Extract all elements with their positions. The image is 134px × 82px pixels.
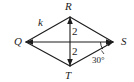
- angle-label-leader: [102, 51, 105, 55]
- vertex-label-t: T: [65, 70, 71, 81]
- vertex-label-s: S: [121, 36, 127, 47]
- segment-length-label-lower: 2: [72, 46, 78, 57]
- side-length-label-k: k: [38, 17, 43, 28]
- side-qr-line: [26, 17, 70, 42]
- angle-arc-s: [101, 42, 103, 49]
- geometry-figure: Q R S T k 2 2 30°: [0, 0, 134, 82]
- segment-length-label-upper: 2: [72, 26, 78, 37]
- side-tq-line: [26, 42, 70, 66]
- vertex-label-q: Q: [14, 36, 22, 47]
- vertex-label-r: R: [65, 1, 72, 12]
- angle-measure-label-s: 30°: [92, 56, 105, 65]
